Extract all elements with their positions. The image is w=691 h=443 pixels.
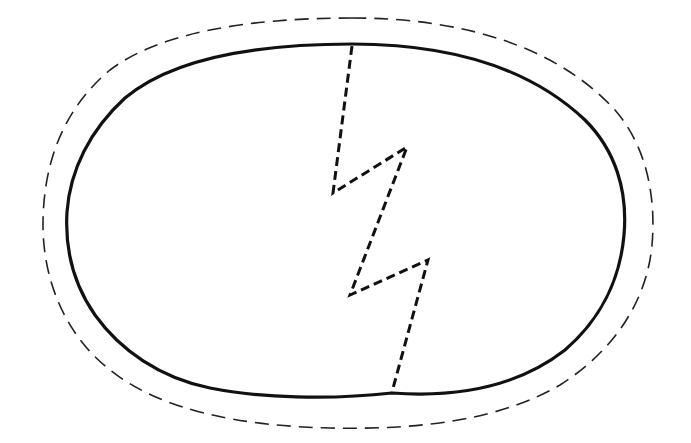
- background: [0, 0, 691, 443]
- egg-crack-diagram: [0, 0, 691, 443]
